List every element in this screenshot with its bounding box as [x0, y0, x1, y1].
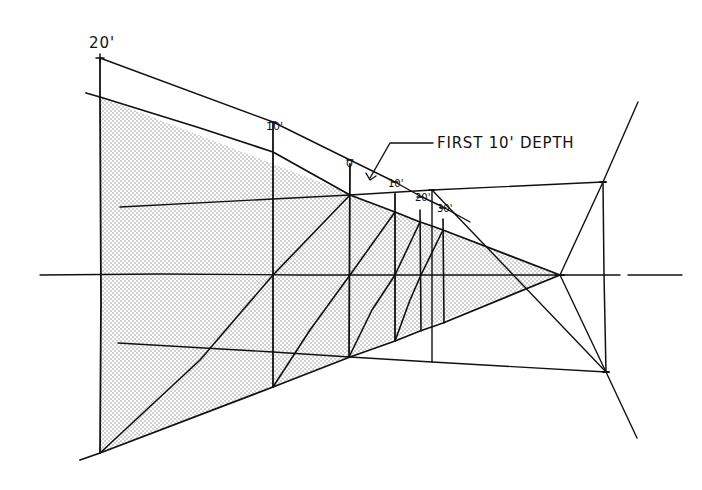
depth-vertical-20b	[420, 210, 421, 331]
right-box-vertical	[603, 182, 606, 372]
callout-first-depth: FIRST 10' DEPTH	[437, 136, 574, 151]
depth-label-20ft: 20'	[415, 193, 430, 203]
depth-label-30ft: 30'	[437, 204, 452, 214]
vp-to-top-right	[560, 102, 638, 275]
height-label-20ft: 20'	[89, 36, 115, 51]
measure-label-10ft: 10'	[266, 121, 283, 132]
depth-vertical-30	[443, 219, 444, 323]
perspective-diagram: 20' 10' 0 10' 20' 30' FIRST 10' DEPTH	[0, 0, 702, 490]
callout-leader	[370, 143, 433, 178]
picture-plane-vertical	[100, 58, 101, 453]
measure-label-zero: 0	[346, 158, 353, 169]
depth-vertical-0	[349, 164, 350, 357]
diagram-canvas	[0, 0, 702, 490]
vp-to-bottom-right	[560, 275, 637, 438]
depth-label-10ft: 10'	[388, 179, 403, 189]
